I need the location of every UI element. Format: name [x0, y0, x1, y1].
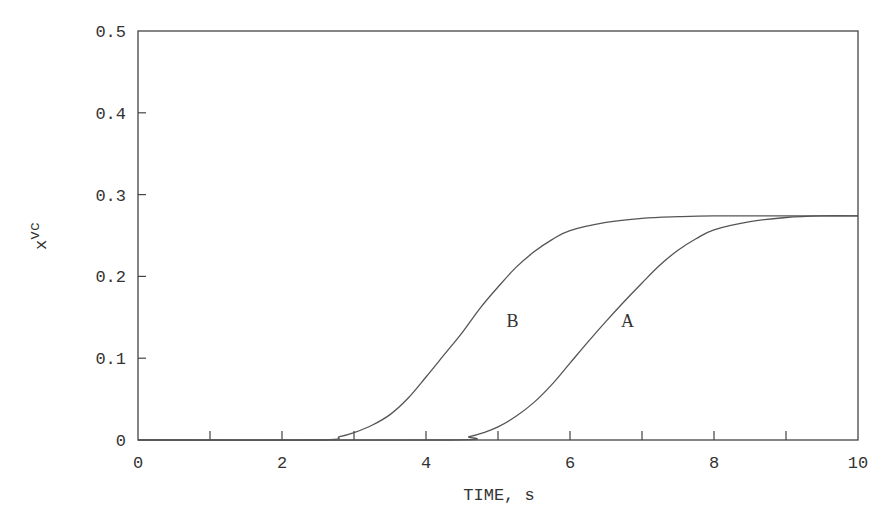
y-tick-label: 0.5 — [95, 23, 126, 42]
y-axis-title: xvc — [27, 222, 51, 250]
y-tick-label: 0.2 — [95, 268, 126, 287]
curve-labels: BA — [506, 311, 634, 331]
x-axis-title: TIME, s — [463, 486, 534, 505]
curves — [138, 216, 858, 440]
svg-text:xvc: xvc — [27, 222, 51, 250]
plot-frame — [138, 31, 858, 440]
curve-label-a: A — [621, 311, 634, 331]
y-tick-label: 0 — [116, 432, 126, 451]
x-tick-label: 0 — [133, 454, 143, 473]
x-axis-ticks: 0246810 — [133, 431, 868, 473]
x-tick-label: 4 — [421, 454, 431, 473]
x-tick-label: 8 — [709, 454, 719, 473]
line-chart: 0246810 00.10.20.30.40.5 BA TIME, s xvc — [0, 0, 887, 521]
y-axis-title-sub: vc — [27, 222, 44, 240]
x-tick-label: 6 — [565, 454, 575, 473]
curve-b — [138, 216, 858, 440]
y-axis-title-main: x — [32, 240, 51, 250]
curve-a — [138, 216, 858, 440]
y-tick-label: 0.3 — [95, 187, 126, 206]
y-tick-label: 0.1 — [95, 350, 126, 369]
x-tick-label: 10 — [848, 454, 868, 473]
x-tick-label: 2 — [277, 454, 287, 473]
y-tick-label: 0.4 — [95, 105, 126, 124]
curve-label-b: B — [506, 311, 518, 331]
